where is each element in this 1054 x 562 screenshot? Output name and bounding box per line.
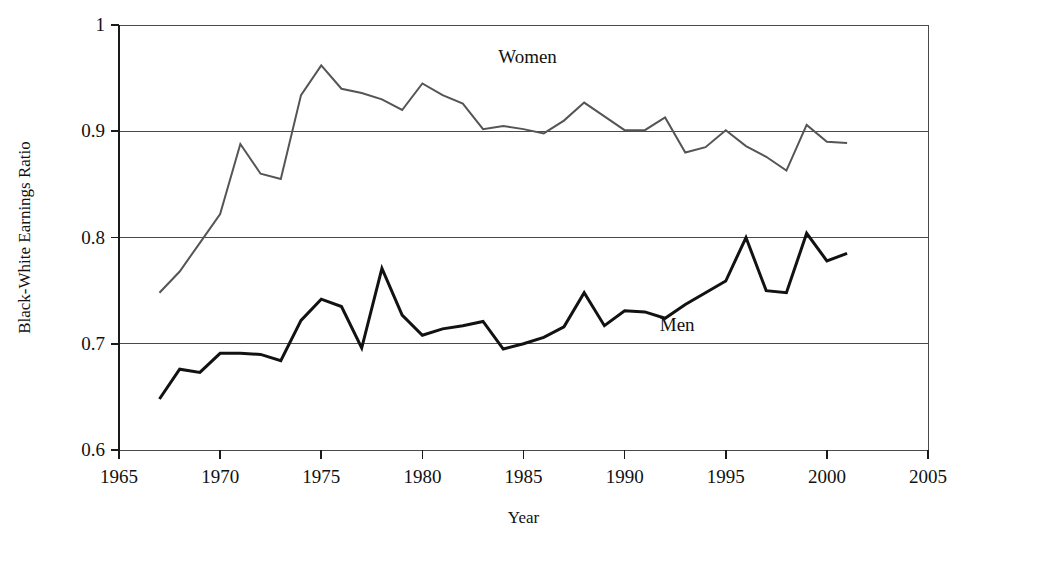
- y-tick-label: 0.6: [81, 439, 105, 460]
- series-line-men: [159, 233, 847, 399]
- x-axis-title: Year: [508, 508, 540, 527]
- chart-container: 0.60.70.80.91 19651970197519801985199019…: [0, 0, 1054, 562]
- y-tick-label: 1: [96, 14, 106, 35]
- series-annotations: WomenMen: [498, 46, 695, 335]
- y-axis-tick-labels: 0.60.70.80.91: [81, 14, 105, 460]
- series-label-men: Men: [660, 314, 695, 335]
- x-tick-label: 1995: [707, 466, 745, 487]
- y-tick-label: 0.7: [81, 333, 105, 354]
- line-chart: 0.60.70.80.91 19651970197519801985199019…: [0, 0, 1054, 562]
- x-tick-label: 1985: [505, 466, 543, 487]
- x-tick-label: 1965: [100, 466, 138, 487]
- series-line-women: [159, 65, 847, 292]
- axis-ticks: [111, 25, 928, 459]
- series-label-women: Women: [498, 46, 557, 67]
- x-axis-tick-labels: 196519701975198019851990199520002005: [100, 466, 947, 487]
- data-series: [159, 65, 847, 399]
- x-tick-label: 1990: [606, 466, 644, 487]
- x-tick-label: 1975: [302, 466, 340, 487]
- x-tick-label: 1970: [201, 466, 239, 487]
- x-tick-label: 2000: [808, 466, 846, 487]
- x-tick-label: 1980: [403, 466, 441, 487]
- y-tick-label: 0.8: [81, 227, 105, 248]
- y-axis-title: Black-White Earnings Ratio: [15, 141, 34, 334]
- x-tick-label: 2005: [909, 466, 947, 487]
- y-tick-label: 0.9: [81, 120, 105, 141]
